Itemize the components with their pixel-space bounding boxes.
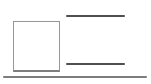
horizontal-rule-top — [66, 15, 125, 17]
horizontal-rule-middle — [66, 63, 125, 65]
full-width-divider — [3, 76, 147, 78]
square-outline-placeholder — [13, 21, 60, 72]
wireframe-canvas — [0, 0, 151, 84]
